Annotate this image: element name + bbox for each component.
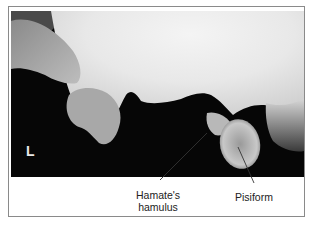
label-hamulus-line1: Hamate's xyxy=(133,189,183,201)
pisiform-leader-line xyxy=(238,147,254,183)
label-pisiform: Pisiform xyxy=(230,191,278,203)
label-hamulus-line2: hamulus xyxy=(133,201,183,213)
hamulus-leader-line xyxy=(160,133,207,180)
label-hamates-hamulus: Hamate's hamulus xyxy=(133,189,183,213)
